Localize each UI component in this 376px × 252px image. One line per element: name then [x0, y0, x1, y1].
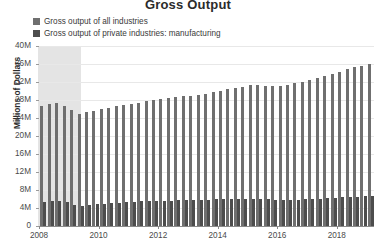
- y-tick-mark: [36, 82, 39, 83]
- x-tick-label: 2014: [198, 231, 238, 240]
- y-tick-label: 28M: [0, 96, 31, 104]
- y-tick-label: 36M: [0, 60, 31, 68]
- bar-manufacturing[interactable]: [215, 199, 218, 226]
- bar-manufacturing[interactable]: [177, 200, 180, 226]
- bar-manufacturing[interactable]: [297, 200, 300, 226]
- bar-manufacturing[interactable]: [326, 198, 329, 226]
- y-tick-label: 20M: [0, 132, 31, 140]
- bar-manufacturing[interactable]: [349, 197, 352, 226]
- y-tick-mark: [36, 154, 39, 155]
- x-tick-mark: [337, 226, 338, 229]
- bar-manufacturing[interactable]: [88, 205, 91, 226]
- bar-manufacturing[interactable]: [110, 203, 113, 226]
- bar-manufacturing[interactable]: [304, 199, 307, 226]
- plot-area: 04M8M12M16M20M24M28M32M36M40M 2008201020…: [39, 46, 374, 226]
- y-tick-label: 24M: [0, 114, 31, 122]
- legend-label-all-industries: Gross output of all industries: [44, 17, 148, 26]
- bar-manufacturing[interactable]: [319, 199, 322, 226]
- bar-manufacturing[interactable]: [222, 199, 225, 226]
- y-tick-label: 8M: [0, 186, 31, 194]
- bar-manufacturing[interactable]: [58, 201, 61, 226]
- y-tick-mark: [36, 64, 39, 65]
- x-tick-mark: [277, 226, 278, 229]
- x-tick-mark: [39, 226, 40, 229]
- bar-manufacturing[interactable]: [267, 199, 270, 226]
- bar-manufacturing[interactable]: [356, 197, 359, 226]
- legend-label-manufacturing: Gross output of private industries: manu…: [44, 29, 221, 38]
- y-tick-mark: [36, 190, 39, 191]
- x-tick-label: 2018: [317, 231, 357, 240]
- bar-manufacturing[interactable]: [252, 199, 255, 226]
- x-tick-mark: [99, 226, 100, 229]
- bar-manufacturing[interactable]: [259, 199, 262, 226]
- y-tick-mark: [36, 208, 39, 209]
- x-tick-mark: [218, 226, 219, 229]
- bar-manufacturing[interactable]: [200, 200, 203, 226]
- y-tick-mark: [36, 46, 39, 47]
- bar-manufacturing[interactable]: [237, 199, 240, 226]
- bar-manufacturing[interactable]: [192, 200, 195, 226]
- legend-swatch-all-industries: [33, 18, 40, 25]
- bar-manufacturing[interactable]: [207, 200, 210, 226]
- bar-manufacturing[interactable]: [364, 196, 367, 226]
- bar-manufacturing[interactable]: [118, 203, 121, 226]
- y-tick-label: 16M: [0, 150, 31, 158]
- bar-manufacturing[interactable]: [274, 200, 277, 226]
- bar-manufacturing[interactable]: [185, 200, 188, 226]
- bar-manufacturing[interactable]: [73, 205, 76, 226]
- bar-manufacturing[interactable]: [96, 204, 99, 226]
- bar-manufacturing[interactable]: [140, 201, 143, 226]
- bar-manufacturing[interactable]: [244, 199, 247, 226]
- bar-manufacturing[interactable]: [43, 202, 46, 226]
- bar-manufacturing[interactable]: [282, 200, 285, 226]
- gross-output-chart: Gross Output Gross output of all industr…: [0, 0, 376, 252]
- y-tick-label: 32M: [0, 78, 31, 86]
- y-tick-label: 40M: [0, 42, 31, 50]
- x-tick-label: 2008: [19, 231, 59, 240]
- x-tick-label: 2016: [257, 231, 297, 240]
- y-tick-mark: [36, 100, 39, 101]
- legend-item-all-industries[interactable]: Gross output of all industries: [33, 16, 221, 26]
- bar-manufacturing[interactable]: [289, 200, 292, 226]
- bar-manufacturing[interactable]: [81, 206, 84, 226]
- bar-manufacturing[interactable]: [334, 198, 337, 226]
- legend-item-manufacturing[interactable]: Gross output of private industries: manu…: [33, 28, 221, 38]
- chart-legend: Gross output of all industries Gross out…: [33, 16, 221, 40]
- bar-manufacturing[interactable]: [51, 201, 54, 226]
- chart-title: Gross Output: [0, 0, 376, 12]
- gridline: [39, 64, 374, 65]
- bar-manufacturing[interactable]: [371, 196, 374, 226]
- y-tick-mark: [36, 136, 39, 137]
- bar-manufacturing[interactable]: [163, 201, 166, 226]
- y-tick-label: 4M: [0, 204, 31, 212]
- x-tick-mark: [158, 226, 159, 229]
- bar-manufacturing[interactable]: [155, 201, 158, 226]
- bar-manufacturing[interactable]: [230, 199, 233, 226]
- gridline: [39, 46, 374, 47]
- bar-manufacturing[interactable]: [170, 201, 173, 226]
- bar-manufacturing[interactable]: [133, 202, 136, 226]
- bar-manufacturing[interactable]: [125, 202, 128, 226]
- bar-manufacturing[interactable]: [148, 201, 151, 226]
- bar-manufacturing[interactable]: [66, 202, 69, 226]
- bar-manufacturing[interactable]: [103, 204, 106, 226]
- x-tick-label: 2010: [79, 231, 119, 240]
- bar-manufacturing[interactable]: [311, 199, 314, 226]
- y-tick-mark: [36, 118, 39, 119]
- y-tick-mark: [36, 172, 39, 173]
- y-tick-label: 12M: [0, 168, 31, 176]
- bar-manufacturing[interactable]: [341, 197, 344, 226]
- legend-swatch-manufacturing: [33, 30, 40, 37]
- axis-baseline: [39, 226, 374, 227]
- x-tick-label: 2012: [138, 231, 178, 240]
- y-tick-label: 0: [0, 222, 31, 230]
